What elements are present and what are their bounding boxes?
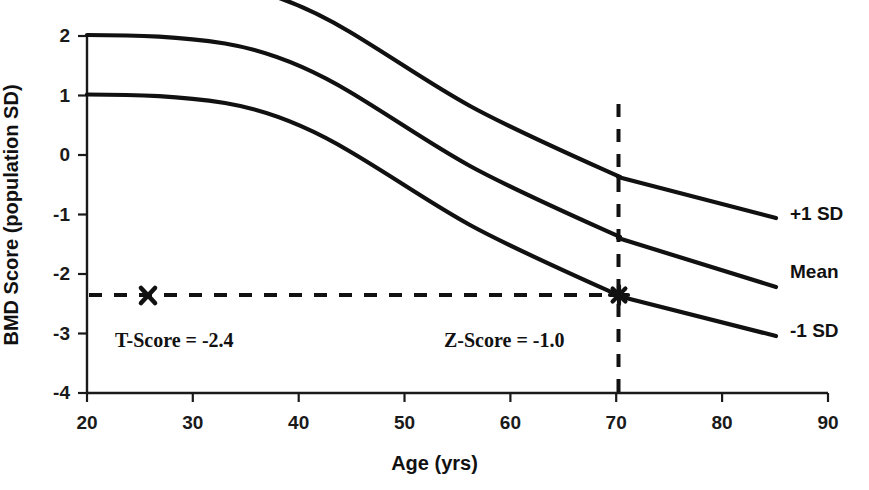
xtick-label-20: 20 (76, 412, 97, 434)
z-score-marker-icon (610, 286, 628, 304)
xtick-label-90: 90 (817, 412, 838, 434)
ytick-label-0: 0 (44, 144, 70, 166)
ytick-label-minus-2: -2 (38, 263, 70, 285)
y-axis-ticks (78, 36, 87, 393)
ytick-label-minus-1: -1 (38, 204, 70, 226)
curve-label-minus-1-sd: -1 SD (790, 320, 839, 342)
z-score-annotation: Z-Score = -1.0 (444, 329, 564, 352)
xtick-label-30: 30 (182, 412, 203, 434)
curve-plus-1-sd-tail (618, 177, 776, 218)
t-score-annotation: T-Score = -2.4 (115, 329, 234, 352)
x-axis-title: Age (yrs) (0, 452, 869, 475)
curve-minus-1-sd-tail (618, 296, 776, 336)
y-axis-title: BMD Score (population SD) (0, 15, 23, 415)
ytick-label-minus-3: -3 (38, 323, 70, 345)
xtick-label-40: 40 (288, 412, 309, 434)
curve-label-mean: Mean (790, 261, 839, 283)
curve-plus-1-sd (87, 0, 620, 177)
xtick-label-80: 80 (712, 412, 733, 434)
ytick-label-minus-4: -4 (38, 382, 70, 404)
xtick-label-60: 60 (500, 412, 521, 434)
curve-mean-tail (618, 238, 776, 287)
ytick-label-2: 2 (44, 25, 70, 47)
curve-minus-1-sd (87, 95, 620, 297)
curve-label-plus-1-sd: +1 SD (790, 203, 843, 225)
x-axis-ticks (87, 393, 828, 402)
curve-mean (87, 35, 620, 237)
ytick-label-1: 1 (44, 85, 70, 107)
bmd-score-chart: 2 1 0 -1 -2 -3 -4 20 30 40 50 60 70 80 9… (0, 0, 869, 490)
plot-area (0, 0, 869, 490)
xtick-label-50: 50 (394, 412, 415, 434)
xtick-label-70: 70 (606, 412, 627, 434)
